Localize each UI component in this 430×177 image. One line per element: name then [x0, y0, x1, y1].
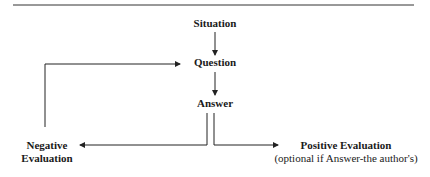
node-question: Question: [175, 56, 255, 68]
node-negative-evaluation: Negative Evaluation: [10, 139, 84, 165]
positive-label: Positive Evaluation: [262, 139, 430, 152]
positive-note: (optional if Answer-the author's): [262, 152, 430, 165]
node-positive-evaluation: Positive Evaluation (optional if Answer-…: [262, 139, 430, 165]
arrow-answer-to-negative: [80, 113, 207, 145]
node-answer: Answer: [175, 97, 255, 109]
arrow-negative-to-question: [45, 64, 180, 127]
negative-line2: Evaluation: [10, 152, 84, 165]
node-situation: Situation: [175, 17, 255, 29]
negative-line1: Negative: [10, 139, 84, 152]
